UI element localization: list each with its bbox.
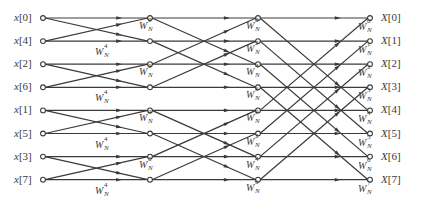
twiddle-factor-label: W3N bbox=[358, 91, 366, 101]
twiddle-factor-label: W4N bbox=[95, 47, 103, 57]
node-icon bbox=[41, 62, 46, 67]
arrow-icon bbox=[335, 178, 341, 182]
arrow-icon bbox=[224, 16, 230, 20]
arrow-icon bbox=[223, 120, 230, 126]
twiddle-factor-label: W4N bbox=[246, 67, 254, 77]
input-label: x[2] bbox=[14, 58, 32, 69]
twiddle-factor-label: W7N bbox=[358, 184, 366, 194]
output-label: X[1] bbox=[381, 35, 401, 46]
output-label: X[3] bbox=[381, 81, 401, 92]
input-label: x[1] bbox=[14, 104, 32, 115]
input-label: x[5] bbox=[14, 128, 32, 139]
arrow-icon bbox=[224, 62, 230, 66]
twiddle-factor-label: W6N bbox=[246, 183, 254, 193]
input-label: x[0] bbox=[14, 12, 32, 23]
node-icon bbox=[41, 108, 46, 113]
twiddle-factor-label: W4N bbox=[246, 160, 254, 170]
twiddle-factor-label: W6N bbox=[246, 90, 254, 100]
node-icon bbox=[148, 39, 153, 44]
output-label: X[2] bbox=[381, 58, 401, 69]
arrow-icon bbox=[224, 155, 230, 159]
twiddle-factor-label: W6N bbox=[358, 161, 366, 171]
output-label: X[7] bbox=[381, 174, 401, 185]
output-label: X[4] bbox=[381, 104, 401, 115]
node-icon bbox=[41, 154, 46, 159]
twiddle-factor-label: W5N bbox=[358, 138, 366, 148]
twiddle-factor-label: W0N bbox=[139, 160, 147, 170]
twiddle-factor-label: W2N bbox=[358, 68, 366, 78]
arrow-icon bbox=[116, 62, 122, 66]
twiddle-factor-label: W0N bbox=[246, 113, 254, 123]
arrow-icon bbox=[223, 164, 230, 170]
twiddle-factor-label: W1N bbox=[358, 45, 366, 55]
input-label: x[3] bbox=[14, 151, 32, 162]
signal-flow-edges bbox=[45, 18, 368, 180]
node-icon bbox=[148, 131, 153, 136]
input-label: x[7] bbox=[14, 174, 32, 185]
node-icon bbox=[41, 85, 46, 90]
arrow-icon bbox=[116, 178, 122, 182]
twiddle-factor-label: W4N bbox=[95, 93, 103, 103]
output-label: X[6] bbox=[381, 151, 401, 162]
twiddle-factor-label: W0N bbox=[139, 67, 147, 77]
twiddle-factor-label: W2N bbox=[246, 44, 254, 54]
arrow-icon bbox=[116, 132, 122, 136]
node-icon bbox=[41, 39, 46, 44]
output-label: X[5] bbox=[381, 128, 401, 139]
arrow-icon bbox=[224, 178, 230, 182]
input-label: x[4] bbox=[14, 35, 32, 46]
arrow-icon bbox=[223, 72, 230, 78]
node-icon bbox=[41, 131, 46, 136]
arrow-icon bbox=[116, 155, 122, 159]
arrow-icon bbox=[335, 16, 341, 20]
node-icon bbox=[41, 16, 46, 21]
arrow-icon bbox=[116, 39, 122, 43]
twiddle-factor-label: W4N bbox=[95, 186, 103, 196]
arrow-icon bbox=[224, 86, 230, 90]
arrow-icon bbox=[224, 132, 230, 136]
output-label: X[0] bbox=[381, 12, 401, 23]
node-icon bbox=[148, 177, 153, 182]
arrow-icon bbox=[224, 109, 230, 113]
arrow-icon bbox=[223, 28, 230, 34]
twiddle-factor-label: W0N bbox=[139, 113, 147, 123]
fft-butterfly-diagram: x[0]x[4]x[2]x[6]x[1]x[5]x[3]x[7]X[0]X[1]… bbox=[0, 0, 422, 210]
twiddle-factor-label: W4N bbox=[95, 140, 103, 150]
twiddle-factor-label: W0N bbox=[246, 21, 254, 31]
twiddle-factor-label: W2N bbox=[246, 137, 254, 147]
arrow-icon bbox=[116, 16, 122, 20]
twiddle-factor-label: W0N bbox=[358, 22, 366, 32]
input-label: x[6] bbox=[14, 81, 32, 92]
node-icon bbox=[148, 85, 153, 90]
arrow-icon bbox=[116, 109, 122, 113]
arrow-icon bbox=[224, 39, 230, 43]
arrow-icon bbox=[116, 86, 122, 90]
node-icon bbox=[41, 177, 46, 182]
twiddle-factor-label: W0N bbox=[139, 21, 147, 31]
twiddle-factor-label: W4N bbox=[358, 114, 366, 124]
